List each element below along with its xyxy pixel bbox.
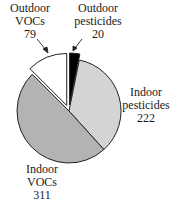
label-outdoor-pesticides: Outdoor pesticides 20 xyxy=(70,2,126,41)
label-outdoor-vocs: Outdoor VOCs 79 xyxy=(4,2,56,41)
label-arrows xyxy=(37,39,82,53)
label-indoor-pesticides: Indoor pesticides 222 xyxy=(118,86,173,125)
pie-slices xyxy=(17,53,121,163)
label-indoor-vocs: Indoor VOCs 311 xyxy=(18,163,66,202)
